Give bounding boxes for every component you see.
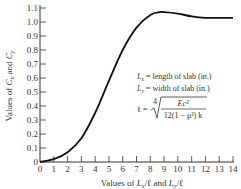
x-tick-label: 12	[201, 164, 210, 174]
chart: 00.10.20.30.40.50.60.70.80.91.01.1 01234…	[0, 0, 241, 189]
x-tick-label: 14	[229, 164, 239, 174]
root-index: 4	[153, 97, 157, 106]
x-tick-label: 0	[38, 164, 43, 174]
annotation-l-eq: ℓ =	[137, 105, 148, 114]
x-tick-label: 1	[52, 164, 57, 174]
y-tick-label: 1.0	[27, 17, 39, 27]
annotation-numerator: Ec³	[177, 99, 189, 108]
x-tick-label: 7	[134, 164, 139, 174]
annotation-ly: Ly= width of slab (in.)	[136, 84, 210, 94]
annotation-denominator: 12(1 − μ²) k	[164, 111, 203, 120]
x-tick-label: 13	[215, 164, 225, 174]
x-ticks: 01234567891011121314	[38, 156, 238, 174]
x-tick-label: 11	[187, 164, 196, 174]
x-tick-label: 2	[65, 164, 70, 174]
y-tick-label: 0.8	[27, 45, 39, 55]
x-tick-label: 4	[93, 164, 98, 174]
y-tick-label: 0.4	[27, 101, 39, 111]
x-tick-label: 3	[79, 164, 84, 174]
x-tick-label: 5	[107, 164, 112, 174]
y-tick-label: 1.1	[27, 3, 38, 13]
x-tick-label: 6	[120, 164, 125, 174]
y-ticks: 00.10.20.30.40.50.60.70.80.91.01.1	[27, 3, 46, 167]
y-tick-label: 0.2	[27, 129, 38, 139]
y-tick-label: 0.9	[27, 31, 39, 41]
y-axis-label: Values of Cx and Cy	[4, 50, 15, 121]
annotation-block: Lx= length of slab (in.) Ly= width of sl…	[136, 72, 212, 120]
y-tick-label: 0.6	[27, 73, 39, 83]
x-tick-label: 8	[148, 164, 153, 174]
x-axis-label: Values of Lx/ℓ and Ly/ℓ	[101, 178, 184, 189]
y-tick-label: 0.1	[27, 143, 38, 153]
y-tick-label: 0.5	[27, 87, 39, 97]
y-tick-label: 0.7	[27, 59, 39, 69]
y-tick-label: 0.3	[27, 115, 39, 125]
x-tick-label: 10	[173, 164, 183, 174]
annotation-lx: Lx= length of slab (in.)	[136, 72, 212, 82]
x-tick-label: 9	[162, 164, 167, 174]
